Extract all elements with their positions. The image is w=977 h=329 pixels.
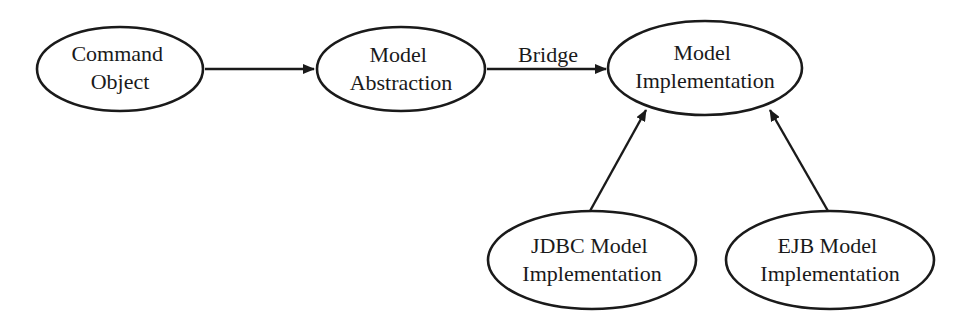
bridge-label: Bridge [518, 42, 578, 67]
model-abstraction-ellipse [317, 27, 485, 111]
model-abstraction-label-line1: Model [370, 42, 427, 67]
node-model-abstraction: Model Abstraction [317, 27, 485, 111]
model-implementation-label-line2: Implementation [635, 68, 774, 93]
model-implementation-label-line1: Model [674, 40, 731, 65]
command-object-label-line1: Command [71, 41, 163, 66]
node-command-object: Command Object [37, 27, 203, 111]
command-object-label-line2: Object [91, 69, 150, 94]
ejb-label-line2: Implementation [760, 261, 899, 286]
jdbc-label-line1: JDBC Model [531, 233, 648, 258]
ejb-model-implementation-ellipse [726, 211, 934, 309]
node-ejb-model-implementation: EJB Model Implementation [726, 211, 934, 309]
jdbc-model-implementation-ellipse [488, 211, 696, 309]
node-model-implementation: Model Implementation [608, 21, 802, 115]
bridge-pattern-diagram: Bridge Command Object Model Abstraction … [0, 0, 977, 329]
edge-ejb-to-implementation [770, 110, 828, 211]
node-jdbc-model-implementation: JDBC Model Implementation [488, 211, 696, 309]
ejb-label-line1: EJB Model [777, 233, 877, 258]
edge-jdbc-to-implementation [590, 110, 646, 211]
jdbc-label-line2: Implementation [522, 261, 661, 286]
model-abstraction-label-line2: Abstraction [350, 70, 453, 95]
